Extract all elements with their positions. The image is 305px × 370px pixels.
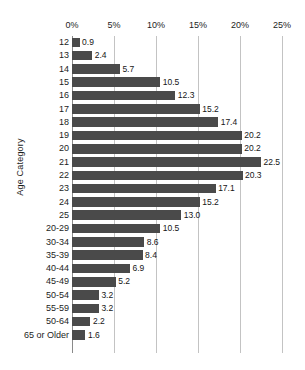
- bar: [72, 290, 99, 300]
- bar: [72, 184, 216, 194]
- bar: [72, 104, 200, 114]
- bar-row: 2513.0: [0, 209, 305, 222]
- bar-value-label: 2.2: [90, 315, 104, 328]
- bar-row: 30-348.6: [0, 236, 305, 249]
- bar: [72, 77, 160, 87]
- bar: [72, 224, 160, 234]
- category-label: 20-29: [0, 222, 69, 235]
- category-label: 24: [0, 196, 69, 209]
- category-label: 15: [0, 76, 69, 89]
- category-label: 50-54: [0, 289, 69, 302]
- category-label: 40-44: [0, 262, 69, 275]
- bar-row: 1920.2: [0, 129, 305, 142]
- bar-value-label: 5.7: [120, 63, 134, 76]
- bar-value-label: 10.5: [160, 76, 179, 89]
- bar-chart: Age Category 0%5%10%15%20%25% 120.9132.4…: [0, 0, 305, 370]
- bar-row: 35-398.4: [0, 249, 305, 262]
- x-axis-tick-label: 25%: [273, 20, 291, 30]
- bar: [72, 317, 90, 327]
- bar: [72, 304, 99, 314]
- bar-value-label: 1.6: [85, 329, 99, 342]
- bar: [72, 197, 200, 207]
- bar-row: 1612.3: [0, 89, 305, 102]
- category-label: 35-39: [0, 249, 69, 262]
- bar-value-label: 15.2: [200, 196, 219, 209]
- bar: [72, 330, 85, 340]
- bar-value-label: 3.2: [99, 302, 113, 315]
- bar: [72, 91, 175, 101]
- category-label: 30-34: [0, 236, 69, 249]
- bar: [72, 144, 242, 154]
- x-axis-tick-label: 15%: [189, 20, 207, 30]
- bar-value-label: 17.1: [216, 182, 235, 195]
- bar: [72, 277, 116, 287]
- category-label: 22: [0, 169, 69, 182]
- category-label: 55-59: [0, 302, 69, 315]
- bar: [72, 264, 130, 274]
- bar-row: 55-593.2: [0, 302, 305, 315]
- bar-row: 132.4: [0, 49, 305, 62]
- bar: [72, 157, 261, 167]
- bar-value-label: 10.5: [160, 222, 179, 235]
- category-label: 50-64: [0, 315, 69, 328]
- bar: [72, 51, 92, 61]
- bar-value-label: 8.4: [143, 249, 157, 262]
- bar-row: 20-2910.5: [0, 222, 305, 235]
- x-axis-tick-label: 20%: [231, 20, 249, 30]
- bar-value-label: 17.4: [218, 116, 237, 129]
- category-label: 12: [0, 36, 69, 49]
- category-label: 21: [0, 156, 69, 169]
- category-label: 45-49: [0, 275, 69, 288]
- bar-row: 2122.5: [0, 156, 305, 169]
- x-axis-tick-label: 10%: [147, 20, 165, 30]
- bar: [72, 131, 242, 141]
- bar-row: 2317.1: [0, 182, 305, 195]
- bar-row: 2020.2: [0, 142, 305, 155]
- x-axis-tick-label: 0%: [65, 20, 78, 30]
- category-label: 19: [0, 129, 69, 142]
- category-label: 25: [0, 209, 69, 222]
- bar-row: 1817.4: [0, 116, 305, 129]
- category-label: 65 or Older: [0, 329, 69, 342]
- bar-row: 50-642.2: [0, 315, 305, 328]
- bar-row: 40-446.9: [0, 262, 305, 275]
- bar-value-label: 13.0: [181, 209, 200, 222]
- bar-value-label: 3.2: [99, 289, 113, 302]
- category-label: 17: [0, 103, 69, 116]
- bar-value-label: 6.9: [130, 262, 144, 275]
- bar-row: 120.9: [0, 36, 305, 49]
- x-axis-tick-label: 5%: [107, 20, 120, 30]
- bar-row: 1510.5: [0, 76, 305, 89]
- bar-row: 2415.2: [0, 196, 305, 209]
- bar-row: 65 or Older1.6: [0, 329, 305, 342]
- category-label: 20: [0, 142, 69, 155]
- bar-value-label: 5.2: [116, 275, 130, 288]
- category-label: 14: [0, 63, 69, 76]
- category-label: 13: [0, 49, 69, 62]
- bar-value-label: 20.2: [242, 129, 261, 142]
- bar-value-label: 15.2: [200, 103, 219, 116]
- bar-row: 1715.2: [0, 103, 305, 116]
- category-label: 18: [0, 116, 69, 129]
- bar: [72, 117, 218, 127]
- bar: [72, 64, 120, 74]
- bar-value-label: 0.9: [80, 36, 94, 49]
- bar-value-label: 12.3: [175, 89, 194, 102]
- bar: [72, 38, 80, 48]
- bar: [72, 210, 181, 220]
- bar-row: 2220.3: [0, 169, 305, 182]
- bar-value-label: 8.6: [144, 236, 158, 249]
- bar: [72, 171, 243, 181]
- bar-value-label: 2.4: [92, 49, 106, 62]
- category-label: 16: [0, 89, 69, 102]
- bar: [72, 250, 143, 260]
- bar-row: 45-495.2: [0, 275, 305, 288]
- bar-row: 50-543.2: [0, 289, 305, 302]
- bar-row: 145.7: [0, 63, 305, 76]
- category-label: 23: [0, 182, 69, 195]
- bar-value-label: 20.2: [242, 142, 261, 155]
- bar: [72, 237, 144, 247]
- bar-value-label: 20.3: [243, 169, 262, 182]
- bar-value-label: 22.5: [261, 156, 280, 169]
